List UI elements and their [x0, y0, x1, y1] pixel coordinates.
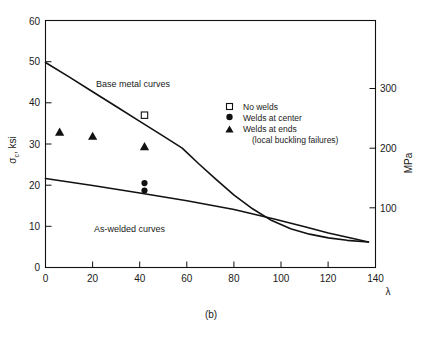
figure-panel: 0 10 20 30 40 50 60 σc, ksi 100 200 300 …: [0, 0, 422, 337]
legend-label-welds-at-ends: Welds at ends: [243, 124, 297, 134]
y-axis-left-title: σc, ksi: [7, 136, 20, 163]
svg-text:σc, ksi: σc, ksi: [7, 136, 20, 163]
y-right-tick-label-100: 100: [380, 203, 397, 214]
data-point-filled-circle: [141, 187, 147, 193]
data-point-open-square: [141, 112, 147, 118]
x-tick-label-80: 80: [228, 273, 240, 284]
y-axis-right-title: MPa: [403, 152, 414, 173]
legend-label-no-welds: No welds: [243, 102, 278, 112]
y-right-tick-label-300: 300: [380, 83, 397, 94]
x-tick-label-140: 140: [367, 273, 384, 284]
x-axis-title: λ: [386, 286, 391, 297]
y-axis-unit-label: , ksi: [7, 136, 18, 154]
x-tick-label-100: 100: [273, 273, 290, 284]
legend: No welds Welds at center Welds at ends (…: [225, 102, 338, 145]
y-tick-label-0: 0: [34, 262, 40, 273]
y-axis-right-unit-label: MPa: [403, 152, 414, 173]
y-axis-left-ticks: [46, 21, 52, 268]
x-tick-label-0: 0: [43, 273, 49, 284]
y-tick-label-50: 50: [29, 56, 41, 67]
y-tick-label-40: 40: [29, 97, 41, 108]
x-tick-label-20: 20: [87, 273, 99, 284]
y-right-tick-label-200: 200: [380, 143, 397, 154]
base-metal-curve-label: Base metal curves: [96, 79, 171, 89]
data-point-filled-triangle: [140, 142, 149, 150]
chart-svg: 0 10 20 30 40 50 60 σc, ksi 100 200 300 …: [0, 0, 422, 337]
x-axis-ticks: [46, 262, 376, 268]
y-tick-label-20: 20: [29, 180, 41, 191]
x-tick-label-60: 60: [181, 273, 193, 284]
data-point-filled-triangle: [88, 132, 97, 140]
legend-filled-circle-marker: [226, 114, 232, 120]
as-welded-curve-label: As-welded curves: [94, 224, 166, 234]
y-tick-label-60: 60: [29, 16, 41, 27]
legend-label-welds-at-center: Welds at center: [243, 113, 302, 123]
legend-open-square-marker: [227, 104, 233, 110]
legend-note-local-buckling: (local buckling failures): [252, 135, 339, 145]
y-tick-label-30: 30: [29, 139, 41, 150]
y-axis-right-ticks: [370, 89, 376, 208]
x-tick-label-120: 120: [320, 273, 337, 284]
data-point-filled-triangle: [55, 128, 64, 136]
base-metal-curve: [46, 62, 369, 241]
data-point-filled-circle: [141, 180, 147, 186]
y-tick-label-10: 10: [29, 221, 41, 232]
legend-filled-triangle-marker: [225, 126, 233, 133]
figure-caption: (b): [205, 309, 217, 320]
x-tick-label-40: 40: [134, 273, 146, 284]
